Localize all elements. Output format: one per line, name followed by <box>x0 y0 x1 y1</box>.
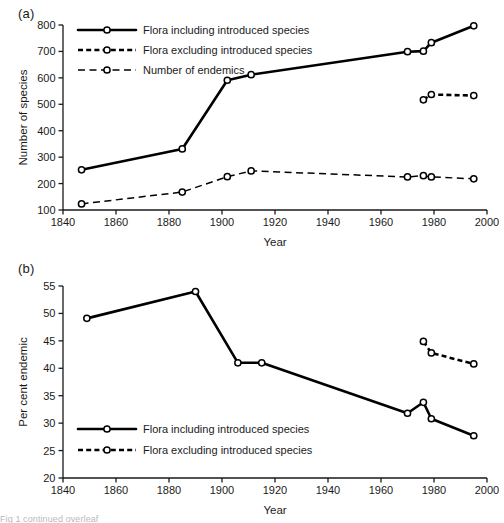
data-point-marker <box>404 410 410 416</box>
x-tick-label: 1920 <box>263 484 287 496</box>
data-point-marker <box>248 168 254 174</box>
x-tick-label: 1880 <box>157 484 181 496</box>
data-point-marker <box>248 72 254 78</box>
data-point-marker <box>428 350 434 356</box>
panel-b-plot: 2025303540455055184018601880190019201940… <box>0 255 504 523</box>
data-point-marker <box>84 315 90 321</box>
data-point-marker <box>259 360 265 366</box>
legend-label-1: Flora excluding introduced species <box>143 44 313 56</box>
y-tick-label: 400 <box>37 125 55 137</box>
figure-container: (a) 100200300400500600700800184018601880… <box>0 0 504 523</box>
data-point-marker <box>404 49 410 55</box>
x-tick-label: 1840 <box>51 484 75 496</box>
data-point-marker <box>420 399 426 405</box>
x-tick-label: 1940 <box>316 484 340 496</box>
legend-marker-1 <box>104 447 110 453</box>
y-axis-title: Per cent endemic <box>17 337 29 427</box>
y-tick-label: 200 <box>37 178 55 190</box>
y-tick-label: 25 <box>43 445 55 457</box>
data-point-marker <box>420 173 426 179</box>
data-point-marker <box>192 288 198 294</box>
data-point-marker <box>224 174 230 180</box>
legend-marker-0 <box>104 426 110 432</box>
y-tick-label: 300 <box>37 151 55 163</box>
data-point-marker <box>428 91 434 97</box>
y-tick-label: 55 <box>43 280 55 292</box>
legend-label-2: Number of endemics <box>143 64 245 76</box>
legend-label-0: Flora including introduced species <box>143 24 310 36</box>
legend-label-1: Flora excluding introduced species <box>143 444 313 456</box>
data-point-marker <box>420 48 426 54</box>
data-point-marker <box>471 92 477 98</box>
data-point-marker <box>235 360 241 366</box>
x-tick-label: 1960 <box>369 216 393 228</box>
data-point-marker <box>78 167 84 173</box>
legend-marker-0 <box>104 27 110 33</box>
x-tick-label: 1900 <box>210 484 234 496</box>
data-point-marker <box>404 174 410 180</box>
data-point-marker <box>471 433 477 439</box>
y-tick-label: 700 <box>37 45 55 57</box>
x-tick-label: 1960 <box>369 484 393 496</box>
data-point-marker <box>428 40 434 46</box>
y-tick-label: 30 <box>43 417 55 429</box>
y-axis-title: Number of species <box>17 69 29 165</box>
y-tick-label: 600 <box>37 72 55 84</box>
y-tick-label: 20 <box>43 472 55 484</box>
x-tick-label: 2000 <box>475 216 499 228</box>
data-point-marker <box>224 77 230 83</box>
x-tick-label: 1980 <box>422 216 446 228</box>
panel-a-plot: 1002003004005006007008001840186018801900… <box>0 0 504 262</box>
x-tick-label: 1940 <box>316 216 340 228</box>
data-point-marker <box>471 23 477 29</box>
y-tick-label: 35 <box>43 390 55 402</box>
y-tick-label: 800 <box>37 19 55 31</box>
x-tick-label: 2000 <box>475 484 499 496</box>
x-tick-label: 1860 <box>104 216 128 228</box>
x-tick-label: 1840 <box>51 216 75 228</box>
y-tick-label: 40 <box>43 362 55 374</box>
data-point-marker <box>471 176 477 182</box>
x-tick-label: 1900 <box>210 216 234 228</box>
series-line-0 <box>87 291 474 435</box>
chart-panel-b: (b) 202530354045505518401860188019001920… <box>0 255 504 523</box>
legend-label-0: Flora including introduced species <box>143 423 310 435</box>
legend-marker-2 <box>104 67 110 73</box>
data-point-marker <box>179 189 185 195</box>
data-point-marker <box>420 97 426 103</box>
data-point-marker <box>420 338 426 344</box>
x-tick-label: 1880 <box>157 216 181 228</box>
y-tick-label: 50 <box>43 307 55 319</box>
y-tick-label: 100 <box>37 204 55 216</box>
data-point-marker <box>471 361 477 367</box>
y-tick-label: 500 <box>37 98 55 110</box>
x-tick-label: 1860 <box>104 484 128 496</box>
data-point-marker <box>179 146 185 152</box>
x-tick-label: 1920 <box>263 216 287 228</box>
data-point-marker <box>428 174 434 180</box>
x-axis-title: Year <box>263 236 286 248</box>
series-line-2 <box>82 171 474 204</box>
data-point-marker <box>428 416 434 422</box>
x-tick-label: 1980 <box>422 484 446 496</box>
y-tick-label: 45 <box>43 335 55 347</box>
data-point-marker <box>78 201 84 207</box>
chart-panel-a: (a) 100200300400500600700800184018601880… <box>0 0 504 262</box>
legend-marker-1 <box>104 47 110 53</box>
figure-caption-clipped: Fig 1 continued overleaf <box>0 514 504 523</box>
